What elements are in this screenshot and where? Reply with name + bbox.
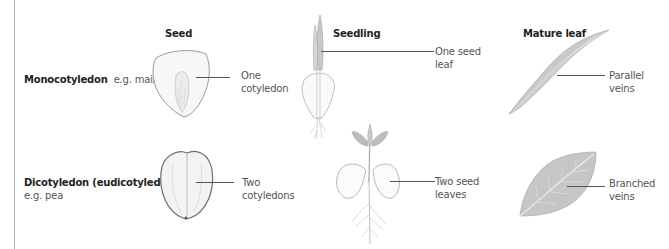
leader-branched-veins: [567, 186, 605, 187]
leader-two-seed-leaves: [390, 181, 435, 182]
left-margin-rule: [14, 0, 15, 249]
row-label-dicot: Dicotyledon (eudicotyledon) e.g. pea: [24, 176, 178, 202]
callout-one-seed-leaf: One seed leaf: [435, 45, 481, 71]
callout-line-2: cotyledon: [241, 82, 288, 95]
dicot-example: e.g. pea: [24, 189, 178, 202]
callout-line-1: One: [241, 69, 288, 82]
callout-line-1: One seed: [435, 45, 481, 58]
callout-line-1: Parallel: [609, 69, 644, 82]
callout-line-1: Branched: [609, 177, 655, 190]
pea-seedling-illustration: [328, 122, 408, 247]
leader-one-seed-leaf: [321, 51, 434, 52]
callout-line-2: leaf: [435, 58, 481, 71]
maize-seedling-illustration: [298, 10, 348, 140]
callout-parallel-veins: Parallel veins: [609, 69, 644, 95]
leader-parallel-veins: [557, 75, 605, 76]
callout-line-2: leaves: [435, 188, 479, 201]
callout-line-1: Two seed: [435, 175, 479, 188]
callout-branched-veins: Branched veins: [609, 177, 655, 203]
callout-one-cotyledon: One cotyledon: [241, 69, 288, 95]
column-header-seed: Seed: [165, 28, 192, 39]
dicot-name: Dicotyledon (eudicotyledon): [24, 176, 178, 189]
branched-vein-leaf-illustration: [518, 150, 600, 220]
monocot-name: Monocotyledon: [24, 74, 108, 85]
pea-seed-illustration: [157, 150, 217, 220]
parallel-vein-leaf-illustration: [505, 28, 615, 118]
maize-seed-illustration: [148, 48, 218, 118]
callout-two-seed-leaves: Two seed leaves: [435, 175, 479, 201]
callout-two-cotyledons: Two cotyledons: [242, 176, 294, 202]
callout-line-1: Two: [242, 176, 294, 189]
leader-one-cotyledon: [196, 77, 230, 78]
leader-two-cotyledons: [196, 182, 234, 183]
row-label-monocot: Monocotyledon e.g. maize: [24, 73, 164, 86]
callout-line-2: cotyledons: [242, 189, 294, 202]
callout-line-2: veins: [609, 82, 644, 95]
callout-line-2: veins: [609, 190, 655, 203]
